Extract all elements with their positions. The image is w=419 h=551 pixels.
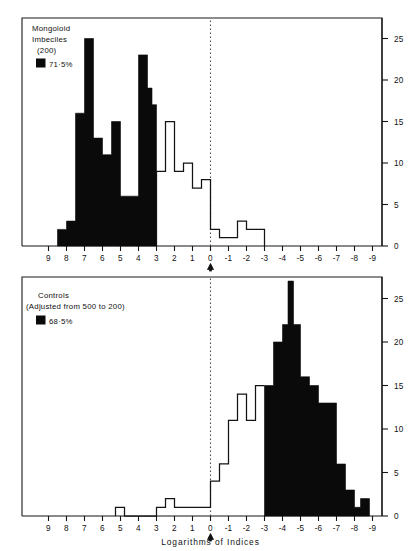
top-legend-line3: (200) [37,46,57,55]
top-x-tick-label-3: 3 [154,254,159,263]
top-x-tick-label-9: 9 [46,254,51,263]
top-x-tick-label-m5: -5 [297,254,305,263]
bottom-y-tick-label-15: 15 [394,382,404,391]
bottom-open-histogram [116,386,265,517]
top-y-tick-label-5: 5 [394,201,399,210]
top-x-tick-label-2: 2 [172,254,177,263]
figure-container: 0 5 10 15 20 25 [0,0,419,551]
bottom-y-tick-label-0: 0 [394,512,399,521]
bottom-x-tick-label-m5: -5 [297,524,305,533]
bottom-x-tick-label-8: 8 [64,524,69,533]
bottom-y-tick-label-10: 10 [394,425,404,434]
bottom-x-tick-label-9: 9 [46,524,51,533]
bottom-x-tick-label-7: 7 [82,524,87,533]
top-y-ticks [382,39,388,247]
top-x-tick-label-4: 4 [136,254,141,263]
top-shaded-histogram [58,39,157,247]
top-x-ticks [49,246,373,251]
top-x-tick-label-7: 7 [82,254,87,263]
top-x-tick-label-0: 0 [208,254,213,263]
top-x-tick-label-m7: -7 [333,254,341,263]
bottom-x-tick-label-3: 3 [154,524,159,533]
top-legend-percent: 71·5% [49,60,73,69]
top-legend-line2: Imbeciles [32,35,67,44]
top-x-tick-label-m1: -1 [225,254,233,263]
top-x-tick-label-m6: -6 [315,254,323,263]
bottom-x-tick-label-m6: -6 [315,524,323,533]
top-legend-line1: Mongoloid [32,24,70,33]
bottom-x-tick-label-m3: -3 [261,524,269,533]
bottom-y-tick-labels: 0 5 10 15 20 25 [394,295,404,522]
bottom-x-tick-label-m1: -1 [225,524,233,533]
bottom-x-ticks [49,516,373,521]
top-y-tick-label-0: 0 [394,242,399,251]
top-x-tick-labels: 9 8 7 6 5 4 3 2 1 0 -1 -2 -3 -4 -5 -6 -7… [46,254,376,263]
bottom-x-tick-label-2: 2 [172,524,177,533]
bottom-legend-percent: 68·5% [49,317,73,326]
top-legend: Mongoloid Imbeciles (200) 71·5% [32,24,73,69]
top-legend-swatch [36,59,46,68]
top-y-tick-label-10: 10 [394,159,404,168]
top-x-tick-label-m2: -2 [243,254,251,263]
top-zero-arrow-marker [208,264,214,272]
bottom-y-tick-label-5: 5 [394,469,399,478]
bottom-x-tick-labels: 9 8 7 6 5 4 3 2 1 0 -1 -2 -3 -4 -5 -6 -7… [46,524,376,533]
panel-bottom: 0 5 10 15 20 25 [22,277,404,541]
top-x-tick-label-8: 8 [64,254,69,263]
bottom-x-tick-label-4: 4 [136,524,141,533]
bottom-x-tick-label-m4: -4 [279,524,287,533]
panel-top: 0 5 10 15 20 25 [22,18,404,271]
bottom-x-tick-label-0: 0 [208,524,213,533]
histogram-figure: 0 5 10 15 20 25 [0,0,419,551]
bottom-legend-swatch [36,316,46,325]
top-y-tick-label-20: 20 [394,76,404,85]
top-x-tick-label-1: 1 [190,254,195,263]
x-axis-title: Logarithms of Indices [161,537,260,547]
top-open-histogram [157,122,265,247]
top-x-tick-label-m9: -9 [369,254,377,263]
top-x-tick-label-5: 5 [118,254,123,263]
bottom-shaded-histogram [265,281,370,516]
bottom-x-tick-label-1: 1 [190,524,195,533]
bottom-legend-line1: Controls [38,291,69,300]
bottom-y-tick-label-20: 20 [394,338,404,347]
top-x-tick-label-6: 6 [100,254,105,263]
top-x-tick-label-m8: -8 [351,254,359,263]
bottom-y-tick-label-25: 25 [394,295,404,304]
bottom-x-tick-label-6: 6 [100,524,105,533]
bottom-y-ticks [382,299,388,517]
bottom-legend-line2: (Adjusted from 500 to 200) [26,302,125,311]
top-y-tick-labels: 0 5 10 15 20 25 [394,35,404,252]
top-x-tick-label-m4: -4 [279,254,287,263]
bottom-x-tick-label-m8: -8 [351,524,359,533]
top-y-tick-label-15: 15 [394,118,404,127]
bottom-x-tick-label-m7: -7 [333,524,341,533]
bottom-x-tick-label-m9: -9 [369,524,377,533]
bottom-legend: Controls (Adjusted from 500 to 200) 68·5… [26,291,125,326]
top-x-tick-label-m3: -3 [261,254,269,263]
bottom-x-tick-label-5: 5 [118,524,123,533]
top-y-tick-label-25: 25 [394,35,404,44]
bottom-x-tick-label-m2: -2 [243,524,251,533]
